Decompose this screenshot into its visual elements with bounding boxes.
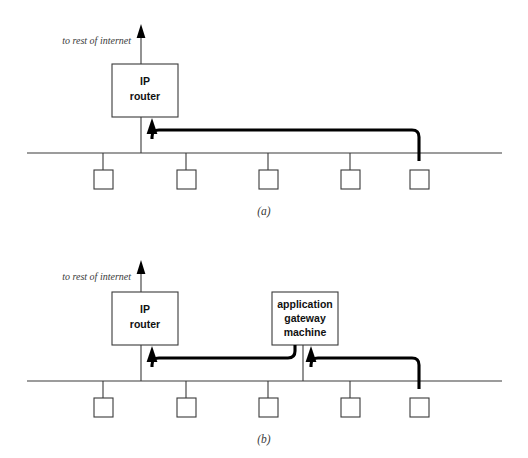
panel-caption-a: (a) — [257, 205, 271, 218]
panel-b: IP router to rest of internet applicatio… — [27, 260, 502, 446]
panel-caption-b: (b) — [257, 433, 271, 446]
host-box-b-4 — [341, 398, 360, 417]
ip-router-label-line1-b: IP — [140, 303, 150, 315]
firewall-cable-a — [152, 130, 419, 161]
application-gateway-label-line3-b: machine — [284, 326, 327, 338]
application-gateway-label-line1-b: application — [277, 298, 332, 310]
ip-router-label-line1-a: IP — [140, 75, 150, 87]
application-gateway-label-line2-b: gateway — [284, 312, 326, 324]
host-box-b-1 — [94, 398, 113, 417]
host-box-b-3 — [259, 398, 278, 417]
host-box-a-5 — [410, 170, 429, 189]
internet-uplink-arrow-icon-a — [137, 24, 146, 38]
internet-uplink-arrow-icon-b — [137, 260, 146, 274]
host-box-a-1 — [94, 170, 113, 189]
internet-label-b: to rest of internet — [62, 271, 131, 282]
ip-router-label-line2-a: router — [130, 90, 160, 102]
firewall-cable-arrow-icon-a — [147, 118, 158, 134]
host-box-a-3 — [259, 170, 278, 189]
host-to-gateway-cable-arrow-icon-b — [306, 346, 317, 362]
gateway-to-router-cable-b — [152, 345, 295, 367]
host-box-a-4 — [341, 170, 360, 189]
ip-router-label-line2-b: router — [130, 318, 160, 330]
panel-a: IP router to rest of internet (a) — [27, 24, 502, 218]
host-to-gateway-cable-b — [311, 358, 419, 389]
gateway-to-router-cable-arrow-icon-b — [147, 346, 158, 362]
figure-canvas: IP router to rest of internet (a) IP — [0, 0, 528, 458]
host-box-a-2 — [177, 170, 196, 189]
network-topology-figure: IP router to rest of internet (a) IP — [0, 0, 528, 458]
internet-label-a: to rest of internet — [62, 35, 131, 46]
host-box-b-2 — [177, 398, 196, 417]
host-box-b-5 — [410, 398, 429, 417]
